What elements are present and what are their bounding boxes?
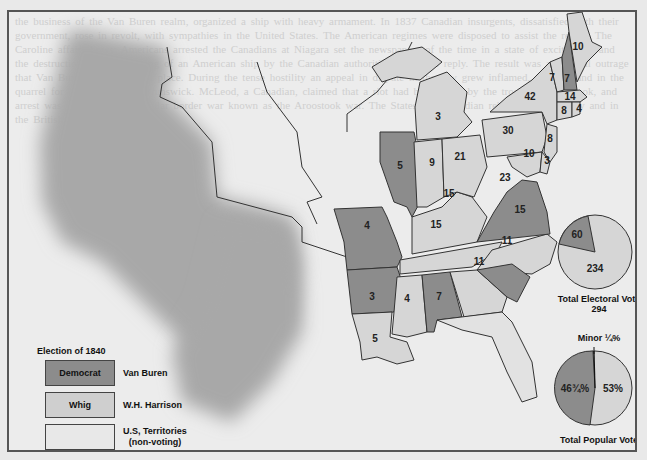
legend-democrat: Democrat Van Buren — [45, 360, 168, 386]
votes-pennsylvania: 30 — [502, 125, 514, 136]
state-missouri — [334, 207, 402, 270]
popular-vote-pie: 46¾% 53% — [554, 347, 632, 425]
votes-rhode-island: 4 — [576, 103, 582, 114]
legend-label-harrison: W.H. Harrison — [123, 400, 182, 411]
legend-title: Election of 1840 — [37, 346, 106, 356]
votes-ohio: 21 — [454, 151, 466, 162]
state-indiana — [414, 139, 444, 207]
legend-territories: U.S, Territories (non-voting) — [45, 424, 187, 450]
michigan-territory-north — [372, 47, 442, 82]
legend-label-van-buren: Van Buren — [123, 368, 168, 379]
votes-michigan: 3 — [435, 111, 441, 122]
votes-connecticut: 8 — [561, 105, 567, 116]
votes-kentucky: 15 — [443, 188, 455, 199]
votes-maine: 10 — [572, 41, 584, 52]
electoral-whig-label: 234 — [587, 263, 604, 274]
legend: Election of 1840 Democrat Van Buren Whig… — [9, 346, 219, 452]
votes-virginia: 23 — [499, 172, 511, 183]
votes-delaware: 3 — [544, 155, 550, 166]
votes-massachusetts: 14 — [564, 91, 576, 102]
popular-minor-label: Minor ¼% — [554, 333, 637, 343]
votes-new-york: 42 — [524, 91, 536, 102]
electoral-dem-label: 60 — [571, 229, 583, 240]
state-mississippi — [392, 275, 427, 337]
state-pennsylvania — [482, 112, 547, 157]
territories-sublabel: (non-voting) — [123, 437, 187, 448]
electoral-caption: Total Electoral Vote 294 — [554, 294, 637, 314]
votes-georgia: 11 — [474, 256, 485, 267]
votes-illinois: 5 — [397, 160, 403, 171]
electoral-total: 294 — [554, 304, 637, 314]
votes-tennessee: 15 — [430, 219, 442, 230]
territories-swatch — [45, 424, 115, 450]
votes-north-carolina: 15 — [514, 204, 526, 215]
votes-missouri: 4 — [364, 220, 370, 231]
votes-alabama: 7 — [436, 291, 442, 302]
electoral-caption-title: Total Electoral Vote — [554, 294, 637, 304]
popular-caption: Total Popular Vote — [544, 435, 637, 445]
votes-louisiana: 5 — [372, 333, 378, 344]
popular-whig-label: 53% — [603, 383, 623, 394]
votes-arkansas: 3 — [369, 291, 375, 302]
territories-label: U.S, Territories — [123, 426, 187, 437]
votes-maryland: 10 — [523, 148, 535, 159]
electoral-vote-pie: 60 234 — [558, 215, 632, 289]
popular-dem-label: 46¾% — [561, 383, 589, 394]
territory-florida — [437, 312, 537, 402]
state-michigan — [415, 72, 472, 140]
votes-mississippi: 4 — [404, 293, 410, 304]
votes-new-hampshire: 7 — [564, 73, 570, 84]
legend-whig: Whig W.H. Harrison — [45, 392, 182, 418]
votes-vermont: 7 — [549, 72, 555, 83]
legend-label-territories: U.S, Territories (non-voting) — [123, 426, 187, 448]
democrat-swatch: Democrat — [45, 360, 115, 386]
votes-indiana: 9 — [429, 157, 435, 168]
votes-new-jersey: 8 — [547, 133, 553, 144]
map-frame: the business of the Van Buren realm, org… — [7, 10, 637, 452]
whig-swatch: Whig — [45, 392, 115, 418]
votes-south-carolina: 11 — [502, 235, 513, 246]
